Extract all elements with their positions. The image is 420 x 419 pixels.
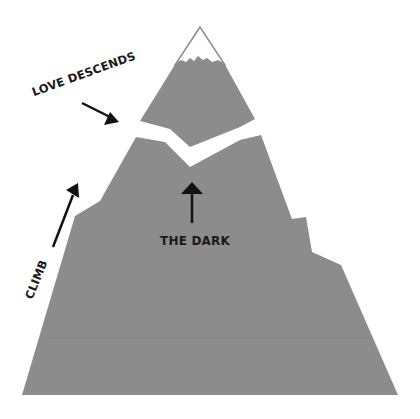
mountain-illustration	[0, 0, 420, 419]
mountain-upper-section	[140, 56, 255, 147]
mountain-lower-section	[22, 135, 398, 395]
the-dark-label: THE DARK	[160, 234, 230, 248]
mountain-diagram: LOVE DESCENDS THE DARK CLIMB	[0, 0, 420, 419]
love-descends-arrow	[82, 103, 119, 125]
